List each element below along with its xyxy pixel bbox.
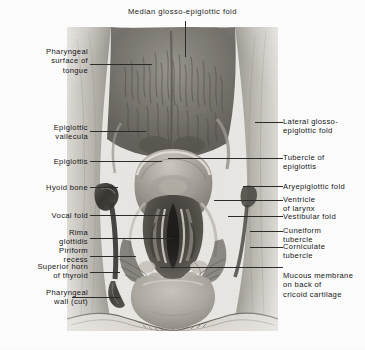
leader-line-aryepiglottic-fold xyxy=(243,186,283,187)
label-rima-glottidis: Rima glottidis xyxy=(4,228,88,247)
label-tubercle-of-epiglottis: Tubercle of epiglottis xyxy=(283,153,365,172)
label-vocal-fold: Vocal fold xyxy=(4,211,88,220)
leader-line-rima-glottidis xyxy=(90,238,172,239)
label-epiglottis: Epiglottis xyxy=(4,157,88,166)
leader-line-title xyxy=(185,21,186,57)
leader-line-pharyngeal-surface-of-tongue xyxy=(90,64,152,65)
leader-line-epiglottic-vallecula xyxy=(90,131,146,132)
label-superior-horn-of-thyroid: Superior horn of thyroid xyxy=(0,262,88,281)
leader-line-tubercle-of-epiglottis xyxy=(168,158,283,159)
label-lateral-glosso-epiglottic-fold: Lateral glosso- epiglottic fold xyxy=(283,117,365,136)
leader-line-lateral-glosso-epiglottic-fold xyxy=(255,122,283,123)
label-vestibular-fold: Vestibular fold xyxy=(283,212,365,221)
leader-line-mucous-membrane-cricoid xyxy=(160,267,283,268)
leader-line-hyoid-bone xyxy=(90,187,118,188)
anatomical-plate: Median glosso-epiglottic fold xyxy=(0,0,365,350)
label-mucous-membrane-cricoid: Mucous membrane on back of cricoid carti… xyxy=(283,271,365,299)
leader-line-superior-horn-of-thyroid xyxy=(90,272,120,273)
leader-line-piriform-recess xyxy=(90,256,136,257)
label-epiglottic-vallecula: Epiglottic vallecula xyxy=(4,123,88,142)
leader-line-vocal-fold xyxy=(90,215,168,216)
leader-line-cuneiform-tubercle xyxy=(250,231,283,232)
figure-title: Median glosso-epiglottic fold xyxy=(0,7,365,16)
leader-line-corniculate-tubercle xyxy=(250,247,283,248)
larynx-photograph xyxy=(67,27,278,331)
label-corniculate-tubercle: Corniculate tubercle xyxy=(283,242,365,261)
label-ventricle-of-larynx: Ventricle of larynx xyxy=(283,195,365,214)
leader-line-epiglottis xyxy=(90,161,162,162)
leader-line-vestibular-fold xyxy=(228,216,283,217)
label-pharyngeal-surface-of-tongue: Pharyngeal surface of tongue xyxy=(4,47,88,75)
leader-line-ventricle-of-larynx xyxy=(214,200,283,201)
label-aryepiglottic-fold: Aryepiglottic fold xyxy=(283,182,365,191)
leader-line-pharyngeal-wall-cut xyxy=(72,297,120,298)
label-hyoid-bone: Hyoid bone xyxy=(4,183,88,192)
